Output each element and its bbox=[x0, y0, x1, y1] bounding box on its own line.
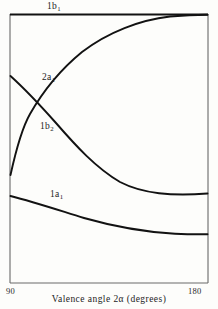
curve-label-1a1-text: 1a bbox=[50, 189, 59, 199]
curve-label-1b1-subscript: 1 bbox=[57, 5, 61, 12]
curve-label-2a1-subscript: 1 bbox=[52, 76, 56, 83]
curve-label-1a1-subscript: 1 bbox=[60, 193, 64, 200]
curve-label-1b1-text: 1b bbox=[47, 1, 57, 11]
curve-label-1b2-subscript: 2 bbox=[50, 125, 54, 132]
curve-label-1b2: 1b2 bbox=[40, 122, 54, 132]
curve-2a1 bbox=[11, 15, 208, 175]
curve-label-1a1: 1a1 bbox=[50, 190, 63, 200]
curve-label-1b2-text: 1b bbox=[40, 121, 50, 131]
walsh-correlation-diagram: 1b1 2a1 1b2 1a1 90 180 Valence angle 2α … bbox=[0, 0, 218, 309]
curve-label-2a1-text: 2a bbox=[42, 72, 51, 82]
x-axis-caption: Valence angle 2α (degrees) bbox=[0, 294, 218, 304]
plot-canvas bbox=[0, 0, 218, 309]
curve-1b2 bbox=[11, 76, 208, 194]
curve-label-1b1: 1b1 bbox=[47, 2, 61, 12]
curve-label-2a1: 2a1 bbox=[42, 73, 55, 83]
curve-1a1 bbox=[11, 196, 208, 234]
